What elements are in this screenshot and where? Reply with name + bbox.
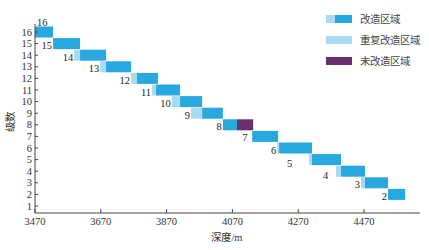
y-tick-label: 8 xyxy=(27,119,32,130)
bar-segment-repeat-modified xyxy=(172,96,180,107)
bar-segment-repeat-modified xyxy=(100,61,106,72)
bar-segment-modified xyxy=(252,131,278,142)
stage-label: 7 xyxy=(242,132,247,143)
stage-label: 16 xyxy=(37,17,48,28)
y-tick-label: 7 xyxy=(27,131,32,142)
legend-label: 重复改造区域 xyxy=(360,32,420,47)
x-tick-label: 4270 xyxy=(288,216,309,227)
y-tick-label: 14 xyxy=(22,50,33,61)
y-tick-label: 6 xyxy=(27,143,32,154)
x-tick-label: 3470 xyxy=(25,216,46,227)
bar-segment-repeat-modified xyxy=(152,85,156,96)
y-tick-label: 1 xyxy=(27,201,32,212)
stage-label: 4 xyxy=(323,170,329,181)
bar-segment-modified xyxy=(223,119,237,130)
legend-label: 未改造区域 xyxy=(360,53,410,68)
bar-segment-modified xyxy=(341,166,365,177)
y-tick-label: 5 xyxy=(27,154,32,165)
x-tick-label: 4470 xyxy=(354,216,375,227)
bar-segment-modified xyxy=(279,143,312,154)
y-tick-label: 10 xyxy=(22,96,33,107)
stage-label: 12 xyxy=(120,75,131,86)
stage-label: 2 xyxy=(382,191,387,202)
bar-segment-repeat-modified xyxy=(74,50,80,61)
y-tick-label: 11 xyxy=(22,85,32,96)
legend-swatch-unmodified xyxy=(326,57,352,65)
bar-segment-repeat-modified xyxy=(309,154,312,165)
legend-swatch-modified xyxy=(326,15,352,23)
stage-label: 10 xyxy=(160,98,171,109)
bar-segment-modified xyxy=(312,154,341,165)
bar-segment-repeat-modified xyxy=(361,177,365,188)
stage-label: 3 xyxy=(355,179,360,190)
x-tick-label: 3870 xyxy=(156,216,177,227)
x-ticks: 347036703870407042704470 xyxy=(25,209,375,227)
y-tick-label: 16 xyxy=(22,27,33,38)
y-tick-label: 3 xyxy=(27,177,32,188)
stage-label: 5 xyxy=(287,158,292,169)
x-tick-label: 3670 xyxy=(90,216,111,227)
y-tick-label: 13 xyxy=(22,61,33,72)
y-tick-label: 4 xyxy=(27,166,33,177)
stage-label: 14 xyxy=(63,52,74,63)
y-tick-label: 12 xyxy=(22,73,33,84)
bar-segment-modified xyxy=(388,189,405,200)
stage-label: 9 xyxy=(185,110,190,121)
y-tick-label: 15 xyxy=(22,38,33,49)
y-tick-label: 9 xyxy=(27,108,32,119)
x-axis-title: 深度/m xyxy=(211,231,242,243)
legend-label: 改造区域 xyxy=(360,11,400,26)
legend-item-unmodified: 未改造区域 xyxy=(326,50,429,71)
stage-label: 15 xyxy=(42,40,53,51)
bar-segment-modified xyxy=(180,96,202,107)
bar-segment-modified xyxy=(365,177,388,188)
bar-segment-repeat-modified xyxy=(131,73,137,84)
legend: 改造区域 重复改造区域 未改造区域 xyxy=(326,8,429,71)
stage-label: 6 xyxy=(271,145,276,156)
legend-swatch-repeat-modified xyxy=(326,36,352,44)
legend-item-repeat-modified: 重复改造区域 xyxy=(326,29,429,50)
legend-item-modified: 改造区域 xyxy=(326,8,429,29)
bar-segment-modified xyxy=(202,108,223,119)
y-tick-label: 2 xyxy=(27,189,32,200)
stage-label: 8 xyxy=(217,121,222,132)
bar-segment-repeat-modified xyxy=(277,143,279,154)
stage-label: 11 xyxy=(141,87,151,98)
y-axis-title: 级数 xyxy=(4,111,16,132)
bar-segment-modified xyxy=(53,38,80,49)
bar-segment-repeat-modified xyxy=(336,166,341,177)
bar-segment-modified xyxy=(106,61,131,72)
y-ticks: 12345678910111213141516 xyxy=(22,27,39,212)
bar-segment-repeat-modified xyxy=(191,108,202,119)
bar-segment-modified xyxy=(137,73,158,84)
bar-segment-modified xyxy=(156,85,180,96)
x-tick-label: 4070 xyxy=(222,216,243,227)
stage-label: 13 xyxy=(89,63,100,74)
bar-segment-modified xyxy=(80,50,106,61)
bar-segment-unmodified xyxy=(237,119,253,130)
